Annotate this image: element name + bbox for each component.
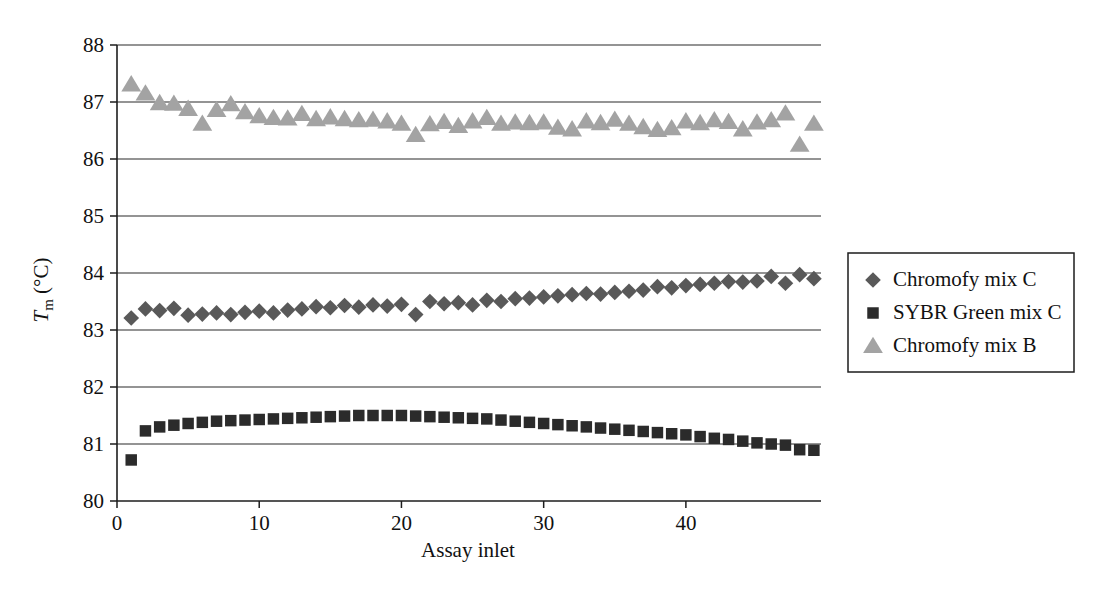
data-point — [493, 294, 509, 310]
data-point — [481, 413, 492, 424]
data-point — [751, 437, 762, 448]
svg-text:Tm (°C): Tm (°C) — [29, 257, 56, 322]
data-point — [735, 274, 751, 290]
data-point — [365, 297, 381, 313]
data-point — [595, 422, 606, 433]
data-point — [680, 429, 691, 440]
data-point — [467, 413, 478, 424]
data-point — [607, 285, 623, 301]
series-triangle — [121, 75, 823, 152]
series-diamond — [123, 267, 821, 326]
data-point — [721, 274, 737, 290]
data-point — [564, 287, 580, 303]
data-point — [479, 293, 495, 309]
data-point — [211, 415, 222, 426]
data-point — [633, 118, 653, 134]
data-point — [538, 418, 549, 429]
data-point — [621, 283, 637, 299]
data-point — [237, 304, 253, 320]
y-tick-label-88: 88 — [83, 33, 104, 57]
data-point — [308, 299, 324, 315]
data-point — [678, 278, 694, 294]
data-point — [808, 445, 819, 456]
data-point — [136, 84, 156, 100]
data-point — [709, 433, 720, 444]
data-point — [552, 419, 563, 430]
data-point — [239, 414, 250, 425]
data-point — [465, 297, 481, 313]
data-point — [394, 297, 410, 313]
x-tick-label-0: 0 — [112, 511, 123, 535]
data-point — [322, 300, 338, 316]
data-point — [450, 295, 466, 311]
data-point — [453, 412, 464, 423]
legend-marker-square — [867, 307, 878, 318]
data-point — [251, 303, 267, 319]
data-point — [794, 444, 805, 455]
data-point — [268, 413, 279, 424]
y-tick-label-84: 84 — [83, 261, 105, 285]
legend-label: SYBR Green mix C — [893, 300, 1062, 324]
data-point — [581, 421, 592, 432]
data-point — [182, 418, 193, 429]
data-point — [765, 438, 776, 449]
data-point — [367, 410, 378, 421]
data-point — [381, 410, 392, 421]
data-point — [424, 411, 435, 422]
data-point — [664, 280, 680, 296]
data-point — [635, 282, 651, 298]
data-point — [292, 105, 312, 121]
data-point — [209, 305, 225, 321]
data-point — [723, 434, 734, 445]
data-point — [605, 110, 625, 126]
data-point — [804, 114, 824, 130]
series-square — [125, 410, 819, 466]
data-point — [164, 94, 184, 110]
data-point — [438, 411, 449, 422]
y-tick-label-86: 86 — [83, 147, 104, 171]
data-point — [609, 423, 620, 434]
x-tick-label-10: 10 — [249, 511, 270, 535]
data-point — [706, 275, 722, 291]
legend-item-2[interactable]: SYBR Green mix C — [867, 300, 1061, 324]
data-point — [351, 299, 367, 315]
x-tick-label-20: 20 — [391, 511, 412, 535]
data-point — [578, 286, 594, 302]
data-point — [166, 301, 182, 317]
data-point — [694, 431, 705, 442]
data-point — [410, 410, 421, 421]
y-tick-label-85: 85 — [83, 204, 104, 228]
data-point — [477, 109, 497, 125]
chart-legend: Chromofy mix CSYBR Green mix CChromofy m… — [848, 253, 1074, 372]
data-point — [123, 310, 139, 326]
data-point — [296, 412, 307, 423]
data-point — [536, 289, 552, 305]
y-tick-label-82: 82 — [83, 375, 104, 399]
data-point — [225, 415, 236, 426]
data-point — [623, 425, 634, 436]
data-point — [282, 413, 293, 424]
data-point — [325, 411, 336, 422]
data-point — [180, 307, 196, 323]
data-point — [294, 301, 310, 317]
legend-label: Chromofy mix C — [893, 267, 1037, 291]
x-tick-label-40: 40 — [675, 511, 696, 535]
data-point — [140, 425, 151, 436]
data-point — [392, 114, 412, 130]
y-tick-label-87: 87 — [83, 90, 104, 114]
legend-label: Chromofy mix B — [893, 333, 1037, 357]
x-axis-title: Assay inlet — [421, 538, 515, 562]
data-point — [566, 420, 577, 431]
data-point — [763, 269, 779, 285]
data-point — [138, 301, 154, 317]
data-point — [396, 410, 407, 421]
data-point — [194, 306, 210, 322]
x-axis-ticks: 010203040 — [112, 501, 697, 535]
data-point — [534, 113, 554, 129]
data-point — [780, 439, 791, 450]
data-point — [591, 114, 611, 130]
data-point — [266, 305, 282, 321]
data-series-group — [121, 75, 823, 466]
data-point — [152, 303, 168, 319]
data-point — [253, 414, 264, 425]
